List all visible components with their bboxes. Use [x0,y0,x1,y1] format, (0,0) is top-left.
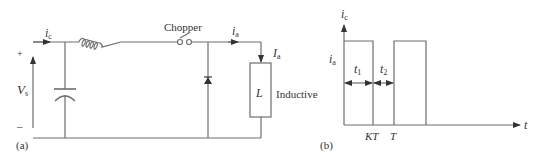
load-type-label: Inductive [276,88,318,100]
x-axis-label: t [524,118,528,132]
t2-label: t2 [380,62,387,77]
source-current-label: ic [45,26,52,41]
y-axis-label: ic [341,7,348,22]
circuit-diagram: ic + – Vs Chopper ia Ia L Inductive (a) [16,21,318,152]
kt-tick-label: KT [364,130,379,142]
source-voltage-label: Vs [17,82,28,98]
inductor [79,38,121,49]
part-a-label: (a) [16,139,29,152]
pulse-2 [394,41,426,125]
load-symbol: L [255,86,263,100]
switch-contact-left [178,40,183,45]
plus-sign: + [17,48,23,59]
load-current-label: ia [232,24,239,39]
level-label: ia [329,52,336,67]
part-b-label: (b) [320,139,333,152]
waveform-plot: ic ia t1 t2 KT T t (b) [320,7,528,152]
chopper-diagram: ic + – Vs Chopper ia Ia L Inductive (a) … [0,0,539,158]
t-tick-label: T [390,130,397,142]
t1-label: t1 [354,62,361,77]
freewheeling-diode [204,77,212,84]
chopper-label: Chopper [164,21,202,33]
load-avg-current-label: Ia [272,46,281,61]
minus-sign: – [16,120,23,132]
switch-blade [180,33,189,38]
switch-contact-right [187,40,192,45]
